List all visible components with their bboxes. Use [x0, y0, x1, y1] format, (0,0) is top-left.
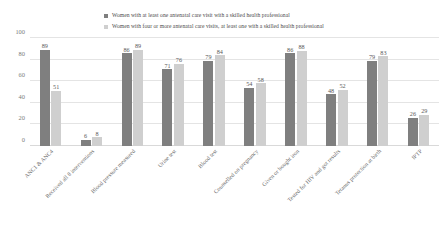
bar[interactable]: 58 [256, 83, 266, 146]
bar-group: 7176 [153, 38, 194, 146]
bar[interactable]: 89 [40, 50, 50, 146]
x-axis-label-cell: Blood pressure measured [112, 148, 153, 228]
bar[interactable]: 54 [244, 88, 254, 146]
x-axis-label-cell: Counselled on pregnancy [235, 148, 276, 228]
bar[interactable]: 29 [419, 115, 429, 146]
bar[interactable]: 6 [81, 140, 91, 146]
bar[interactable]: 8 [92, 137, 102, 146]
bar-value-label: 79 [205, 53, 211, 60]
y-axis-tick-label: 40 [19, 92, 25, 99]
y-axis-tick-label: 100 [15, 28, 25, 35]
bar[interactable]: 26 [408, 118, 418, 146]
bar-group: 8688 [275, 38, 316, 146]
bar[interactable]: 86 [285, 53, 295, 146]
bar-value-label: 58 [258, 76, 264, 83]
x-axis-label: ANC1 & ANC4 [24, 148, 55, 179]
bar[interactable]: 83 [378, 56, 388, 146]
legend-swatch-icon [104, 25, 108, 29]
bar-value-label: 79 [369, 53, 375, 60]
bar-group: 68 [71, 38, 112, 146]
x-axis-label: Blood test [197, 148, 218, 169]
bar-value-label: 89 [42, 42, 48, 49]
bar-group: 8951 [30, 38, 71, 146]
y-axis-tick-label: 20 [19, 114, 25, 121]
bar-value-label: 48 [328, 87, 334, 94]
x-axis-label-cell: Tetanus protection at birth [357, 148, 398, 228]
bar[interactable]: 88 [297, 51, 307, 146]
bar[interactable]: 48 [326, 94, 336, 146]
bar-value-label: 71 [164, 62, 170, 69]
legend-swatch-icon [104, 14, 108, 18]
bar[interactable]: 76 [174, 64, 184, 146]
bar-value-label: 8 [96, 130, 99, 137]
legend-label: Women with four or more antenatal care v… [112, 22, 324, 31]
bar-value-label: 86 [123, 46, 129, 53]
x-axis-label-cell: IPTP [398, 148, 439, 228]
legend-label: Women with at least one antenatal care v… [112, 11, 290, 20]
bar[interactable]: 52 [338, 90, 348, 146]
bar-groups: 89516886897176798454588688485279832629 [30, 38, 439, 146]
bar[interactable]: 84 [215, 55, 225, 146]
x-axis-label: IPTP [410, 148, 423, 161]
y-axis-tick-label: 60 [19, 71, 25, 78]
bar-value-label: 6 [84, 132, 87, 139]
y-axis-tick-label: 80 [19, 49, 25, 56]
bar-group: 7984 [194, 38, 235, 146]
bar-group: 5458 [235, 38, 276, 146]
chart-legend: Women with at least one antenatal care v… [104, 11, 324, 31]
bar-value-label: 54 [246, 80, 252, 87]
bar-value-label: 83 [380, 49, 386, 56]
bar[interactable]: 51 [51, 91, 61, 146]
bar-group: 8689 [112, 38, 153, 146]
bar-value-label: 89 [135, 42, 141, 49]
bar[interactable]: 86 [122, 53, 132, 146]
legend-entry[interactable]: Women with four or more antenatal care v… [104, 22, 324, 31]
bar-group: 2629 [398, 38, 439, 146]
grouped-bar-chart: Women with at least one antenatal care v… [0, 0, 445, 228]
bar[interactable]: 79 [367, 61, 377, 146]
bar[interactable]: 71 [162, 69, 172, 146]
x-axis-labels: ANC1 & ANC4Received all 8 interventionsB… [30, 148, 439, 228]
bar[interactable]: 79 [203, 61, 213, 146]
bar-value-label: 86 [287, 46, 293, 53]
plot-area: 020406080100 895168868971767984545886884… [30, 38, 439, 146]
y-axis-tick-label: 0 [22, 136, 25, 143]
legend-entry[interactable]: Women with at least one antenatal care v… [104, 11, 324, 20]
bar-group: 4852 [316, 38, 357, 146]
bar-value-label: 51 [53, 83, 59, 90]
bar-value-label: 88 [299, 43, 305, 50]
bar-group: 7983 [357, 38, 398, 146]
bar-value-label: 84 [217, 48, 223, 55]
bar-value-label: 26 [410, 110, 416, 117]
x-axis-label-cell: Urine test [153, 148, 194, 228]
bar[interactable]: 89 [133, 50, 143, 146]
bar-value-label: 76 [176, 56, 182, 63]
bar-value-label: 29 [421, 107, 427, 114]
x-axis-label: Urine test [157, 148, 178, 169]
bar-value-label: 52 [339, 82, 345, 89]
